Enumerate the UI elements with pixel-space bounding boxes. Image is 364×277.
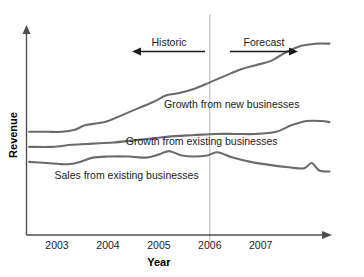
forecast-label: Forecast: [244, 36, 285, 48]
x-tick-labels: 20032004200520062007: [45, 239, 272, 251]
x-tick-label-2004: 2004: [96, 239, 120, 251]
x-tick-label-2003: 2003: [45, 239, 69, 251]
historic-annotation: Historic: [132, 36, 205, 56]
historic-label: Historic: [151, 36, 186, 48]
series-labels: Growth from new businessesGrowth from ex…: [55, 98, 300, 181]
historic-arrowhead: [132, 48, 141, 56]
x-axis-title: Year: [147, 256, 171, 268]
x-axis-arrowhead: [322, 231, 332, 239]
series-label-sales-from-existing-businesses: Sales from existing businesses: [55, 169, 199, 181]
y-axis-title: Revenue: [7, 112, 19, 158]
x-tick-label-2005: 2005: [147, 239, 171, 251]
series-label-growth-from-new-businesses: Growth from new businesses: [164, 98, 299, 110]
x-tick-label-2007: 2007: [249, 239, 273, 251]
series-label-growth-from-existing-businesses: Growth from existing businesses: [126, 135, 278, 147]
series-line-growth-from-new-businesses: [29, 43, 329, 131]
x-tick-label-2006: 2006: [198, 239, 222, 251]
chart-canvas: Growth from new businessesGrowth from ex…: [0, 0, 364, 277]
y-axis-arrowhead: [23, 25, 31, 34]
revenue-forecast-chart: Growth from new businessesGrowth from ex…: [0, 0, 364, 277]
